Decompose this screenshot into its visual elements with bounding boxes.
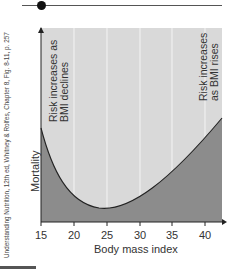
y-axis-label: Mortality — [29, 150, 41, 192]
annotation-low-bmi-line2: BMI declines — [59, 40, 70, 122]
x-tick-15: 15 — [31, 229, 51, 241]
x-tick-25: 25 — [97, 229, 117, 241]
x-axis-arrow-icon — [222, 219, 227, 225]
annotation-high-bmi: Risk increases as BMI rises — [198, 33, 220, 101]
source-credit: Understanding Nutrition, 12th ed, Whitne… — [3, 32, 10, 258]
x-axis-label: Body mass index — [94, 243, 178, 255]
annotation-low-bmi: Risk increases as BMI declines — [48, 40, 70, 122]
x-tick-20: 20 — [64, 229, 84, 241]
x-tick-35: 35 — [162, 229, 182, 241]
x-tick-40: 40 — [195, 229, 215, 241]
x-tick-30: 30 — [130, 229, 150, 241]
x-ticks — [41, 222, 205, 226]
annotation-high-bmi-line2: as BMI rises — [209, 33, 220, 101]
